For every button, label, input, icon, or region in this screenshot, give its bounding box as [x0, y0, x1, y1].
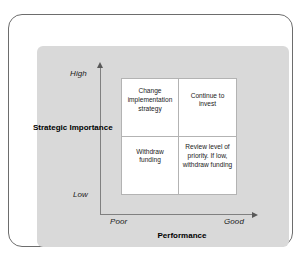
y-axis-arrow-icon: [97, 62, 103, 68]
outer-frame: High Low Poor Good Strategic Importance …: [8, 14, 293, 247]
x-axis-arrow-icon: [252, 212, 258, 218]
quadrant-cell-bottom-right: Review level of priority. If low, withdr…: [179, 137, 236, 195]
quadrant-cell-bottom-left: Withdraw funding: [122, 137, 179, 195]
y-axis-title: Strategic Importance: [33, 123, 95, 134]
y-axis-tick-high: High: [70, 69, 87, 78]
y-axis-line: [100, 67, 101, 215]
quadrant-label-top-left: Change implementation strategy: [125, 87, 175, 113]
quadrant-cell-top-left: Change implementation strategy: [122, 79, 179, 137]
quadrant-label-bottom-right: Review level of priority. If low, withdr…: [182, 143, 233, 169]
quadrant-matrix: Change implementation strategy Continue …: [121, 78, 237, 195]
x-axis-title: Performance: [127, 231, 237, 242]
x-axis-line: [100, 214, 255, 215]
quadrant-label-top-right: Continue to invest: [182, 92, 233, 109]
quadrant-cell-top-right: Continue to invest: [179, 79, 236, 137]
y-axis-tick-low: Low: [73, 190, 88, 199]
x-axis-tick-poor: Poor: [110, 217, 127, 226]
figure-root: High Low Poor Good Strategic Importance …: [0, 0, 304, 261]
x-axis-tick-good: Good: [224, 217, 244, 226]
quadrant-label-bottom-left: Withdraw funding: [125, 148, 175, 165]
